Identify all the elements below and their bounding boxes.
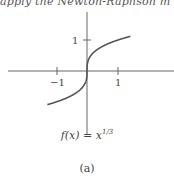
cube-root-plot: −1 1 1 <box>0 0 174 182</box>
function-exponent: 1/3 <box>102 128 113 136</box>
subfigure-label: (a) <box>0 162 174 175</box>
y-tick-label-1: 1 <box>72 35 78 46</box>
x-tick-label-1: 1 <box>115 77 121 88</box>
function-caption-text: f(x) = x <box>61 129 102 142</box>
x-tick-label-neg1: −1 <box>50 77 65 88</box>
function-caption: f(x) = x1/3 <box>0 128 174 142</box>
